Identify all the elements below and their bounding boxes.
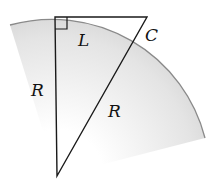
label-R-left: R [30,80,44,100]
label-L: L [77,30,89,50]
label-C: C [145,25,158,45]
label-R-hypotenuse: R [107,101,121,121]
sector-diagram: L C R R [0,0,216,182]
